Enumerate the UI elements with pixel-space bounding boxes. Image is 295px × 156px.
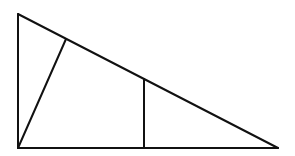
cevian — [18, 39, 66, 148]
geometry-figure — [0, 0, 295, 156]
triangle-diagram — [0, 0, 295, 156]
hypotenuse — [18, 14, 278, 148]
